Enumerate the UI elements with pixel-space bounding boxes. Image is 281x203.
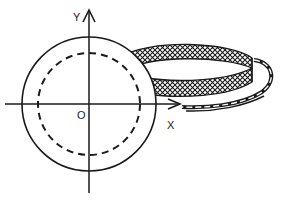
y-axis-label: Y bbox=[73, 12, 80, 23]
x-axis bbox=[5, 99, 180, 109]
diagram-svg bbox=[0, 0, 281, 203]
x-axis-label: X bbox=[167, 120, 174, 131]
origin-label: O bbox=[77, 110, 86, 121]
diagram-canvas: Y O X bbox=[0, 0, 281, 203]
